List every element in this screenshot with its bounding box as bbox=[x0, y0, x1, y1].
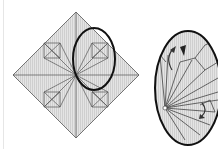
detail-view-panel bbox=[150, 12, 218, 149]
crease-pattern-panel bbox=[0, 0, 218, 149]
diagram-canvas bbox=[0, 0, 218, 149]
